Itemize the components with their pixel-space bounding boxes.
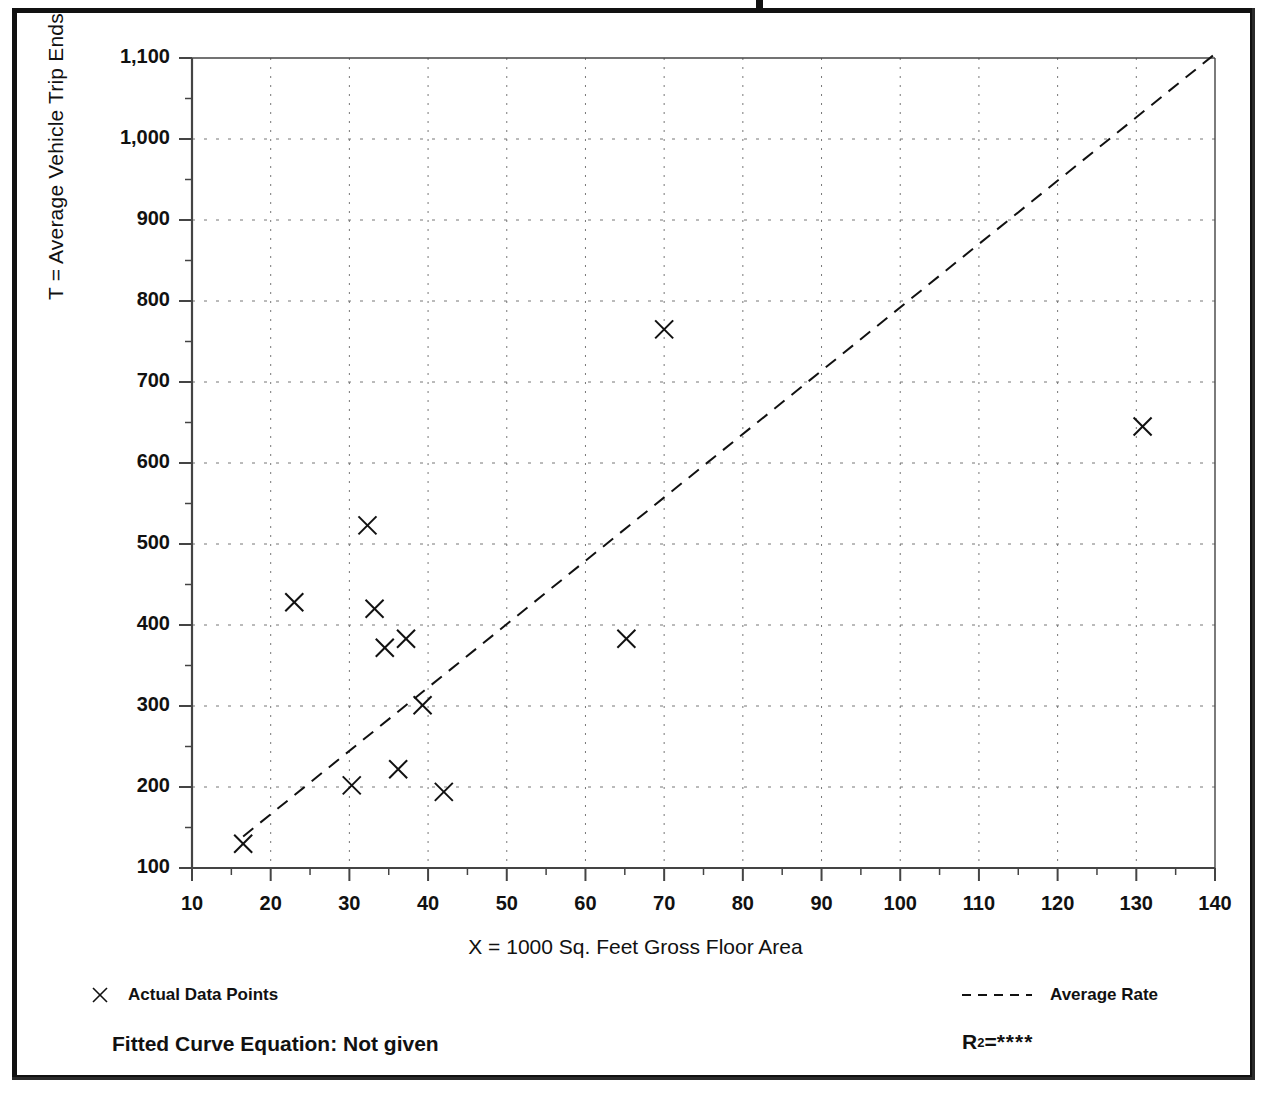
data-point-marker (376, 639, 394, 657)
x-tick-label: 20 (231, 892, 311, 915)
x-tick-label: 60 (545, 892, 625, 915)
data-point-marker (414, 696, 432, 714)
data-point-marker (397, 630, 415, 648)
data-point-marker (435, 783, 453, 801)
x-tick-label: 90 (782, 892, 862, 915)
x-tick-label: 40 (388, 892, 468, 915)
y-tick-label: 200 (137, 774, 170, 797)
y-tick-label: 900 (137, 207, 170, 230)
x-tick-label: 50 (467, 892, 547, 915)
data-point-marker (358, 516, 376, 534)
r-squared-value: **** (997, 1030, 1034, 1054)
plot-canvas (0, 0, 1271, 1094)
y-tick-label: 600 (137, 450, 170, 473)
dashed-line-icon (962, 994, 1032, 996)
y-tick-label: 1,100 (120, 45, 170, 68)
r-squared-symbol: R (962, 1030, 977, 1054)
y-axis-title: T = Average Vehicle Trip Ends (44, 13, 68, 300)
r-squared-equals: = (984, 1030, 996, 1054)
data-point-marker (1134, 418, 1152, 436)
x-tick-label: 80 (703, 892, 783, 915)
data-point-marker (389, 760, 407, 778)
r-squared-exponent: 2 (977, 1035, 984, 1050)
y-tick-label: 500 (137, 531, 170, 554)
x-tick-label: 100 (860, 892, 940, 915)
data-point-marker (234, 835, 252, 853)
scatter-chart: T = Average Vehicle Trip Ends X = 1000 S… (0, 0, 1271, 1094)
y-tick-label: 800 (137, 288, 170, 311)
legend-label-average-rate: Average Rate (1050, 985, 1158, 1005)
x-tick-label: 10 (152, 892, 232, 915)
y-tick-label: 1,000 (120, 126, 170, 149)
y-tick-label: 100 (137, 855, 170, 878)
data-point-marker (343, 776, 361, 794)
x-tick-label: 120 (1018, 892, 1098, 915)
x-tick-label: 140 (1175, 892, 1255, 915)
legend-label-actual-data-points: Actual Data Points (128, 985, 278, 1005)
x-tick-label: 110 (939, 892, 1019, 915)
x-tick-label: 130 (1096, 892, 1176, 915)
data-point-marker (285, 593, 303, 611)
r-squared-note: R2 = **** (962, 1030, 1033, 1054)
y-tick-label: 700 (137, 369, 170, 392)
data-point-marker (655, 320, 673, 338)
fitted-curve-equation-note: Fitted Curve Equation: Not given (112, 1032, 439, 1056)
x-axis-title: X = 1000 Sq. Feet Gross Floor Area (0, 935, 1271, 959)
x-marker-icon (90, 985, 110, 1005)
fitted-curve-equation-text: Fitted Curve Equation: Not given (112, 1032, 439, 1056)
data-point-marker (366, 600, 384, 618)
legend-item-average-rate: Average Rate (962, 985, 1158, 1005)
x-tick-label: 30 (309, 892, 389, 915)
x-tick-label: 70 (624, 892, 704, 915)
y-tick-label: 300 (137, 693, 170, 716)
legend-item-actual-data-points: Actual Data Points (90, 985, 278, 1005)
page-root: T = Average Vehicle Trip Ends X = 1000 S… (0, 0, 1271, 1094)
y-tick-label: 400 (137, 612, 170, 635)
data-point-marker (617, 630, 635, 648)
